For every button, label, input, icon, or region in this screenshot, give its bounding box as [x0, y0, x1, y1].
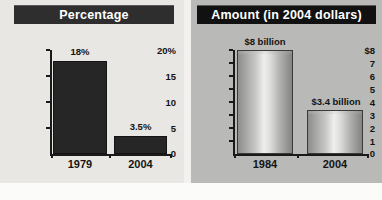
y-axis-line-left: [50, 50, 52, 156]
x-tick-end-left: [170, 154, 172, 158]
y-tick-label-8-right: $8: [347, 45, 375, 56]
y-axis-line-right: [233, 50, 235, 156]
y-tick-6-right: [229, 75, 233, 77]
x-tick-start-right: [234, 154, 236, 158]
y-tick-10-left: [46, 101, 50, 103]
x-category-label-2004-percentage: 2004: [114, 158, 167, 170]
chart-percentage: 20% 15 10 5 0 18% 3.5% 1979 2004: [14, 32, 176, 172]
bottom-strip: [0, 183, 382, 200]
chart-amount: $8 7 6 5 4 3 2 1 0 $8 billion: [199, 32, 375, 172]
x-category-label-1984: 1984: [237, 158, 293, 170]
x-tick-mid-left: [109, 154, 111, 158]
y-tick-1-right: [229, 140, 233, 142]
panel-amount: Amount (in 2004 dollars) $8 7 6 5 4 3 2 …: [191, 0, 382, 183]
x-tick-end-right: [367, 154, 369, 158]
figure-root: Percentage 20% 15 10 5 0 18% 3.5%: [0, 0, 382, 200]
bar-value-label-2004-percentage: 3.5%: [113, 121, 168, 132]
y-tick-15-left: [46, 75, 50, 77]
y-tick-label-20-left: 20%: [146, 45, 176, 56]
x-category-label-2004-amount: 2004: [307, 158, 363, 170]
y-tick-3-right: [229, 114, 233, 116]
y-tick-label-5-right: 5: [347, 84, 375, 95]
y-tick-8-right: [229, 49, 233, 51]
y-tick-7-right: [229, 62, 233, 64]
y-tick-label-7-right: 7: [347, 58, 375, 69]
bar-2004-percentage: [114, 136, 167, 154]
bar-2004-amount: [307, 110, 363, 154]
panel-title-amount: Amount (in 2004 dollars): [197, 5, 376, 24]
y-tick-label-15-left: 15: [146, 71, 176, 82]
y-tick-5-right: [229, 88, 233, 90]
bar-value-label-1979: 18%: [53, 46, 107, 57]
y-tick-label-10-left: 10: [146, 97, 176, 108]
panel-title-percentage: Percentage: [14, 5, 174, 24]
bar-value-label-1984: $8 billion: [231, 36, 299, 47]
bar-1984-top: [237, 50, 293, 54]
y-tick-20-left: [46, 49, 50, 51]
bar-1979: [53, 61, 107, 154]
panel-percentage: Percentage 20% 15 10 5 0 18% 3.5%: [0, 0, 184, 183]
y-tick-4-right: [229, 101, 233, 103]
y-tick-2-right: [229, 127, 233, 129]
y-tick-5-left: [46, 127, 50, 129]
bar-2004-amount-top: [307, 110, 363, 114]
x-tick-mid-right: [297, 154, 299, 158]
bar-1984: [237, 50, 293, 154]
x-category-label-1979: 1979: [53, 158, 107, 170]
bar-value-label-2004-amount: $3.4 billion: [298, 96, 374, 107]
y-tick-label-6-right: 6: [347, 71, 375, 82]
